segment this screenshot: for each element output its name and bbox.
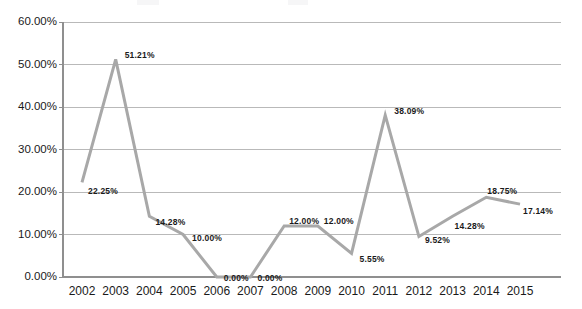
data-point-label: 51.21% [125, 51, 155, 60]
data-point-label: 14.28% [455, 222, 485, 231]
data-point-label: 10.00% [192, 234, 222, 243]
data-point-label: 0.00% [257, 274, 282, 283]
data-point-label: 5.55% [360, 255, 385, 264]
line-chart: 0.00%10.00%20.00%30.00%40.00%50.00%60.00… [0, 0, 582, 309]
data-point-label: 12.00% [324, 217, 354, 226]
data-point-label: 22.25% [88, 187, 118, 196]
data-point-label: 18.75% [487, 187, 517, 196]
data-point-label: 38.09% [394, 107, 424, 116]
data-point-labels: 22.25%51.21%14.28%10.00%0.00%0.00%12.00%… [0, 0, 582, 309]
data-point-label: 12.00% [289, 217, 319, 226]
data-point-label: 9.52% [425, 236, 450, 245]
data-point-label: 17.14% [523, 207, 553, 216]
data-point-label: 14.28% [155, 218, 185, 227]
data-point-label: 0.00% [224, 274, 249, 283]
